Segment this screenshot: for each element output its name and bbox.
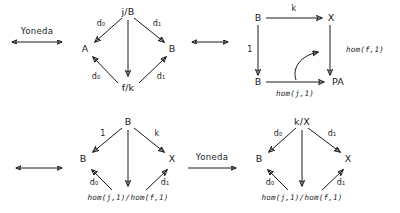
panel2-edge-top-label: k [292,5,297,13]
panel4-edge-apex-left-label: d₀ [274,130,283,138]
panel1-edge-bottom-left-label: d₀ [92,73,101,81]
panel2-edge-bottom-label: hom(j,1) [276,90,314,98]
panel3-edge-bottom-left-label: d₀ [90,179,99,187]
panel2-edge-right-label: hom(f,1) [346,46,384,54]
panel3-node-bottom: hom(j,1)/hom(f,1) [87,194,168,202]
panel1-edge-apex-left-label: d₀ [97,20,106,28]
yoneda-top-label: Yoneda [21,27,53,36]
panel1-edge-bottom-right-label: d₁ [157,73,166,81]
panel1-edge-apex-right-label: d₁ [153,20,162,28]
panel4-edge-bottom-left-label: d₀ [266,179,275,187]
panel4-edge-apex-right-label: d₁ [328,130,337,138]
panel4-node-right: X [345,154,352,164]
panel2-node-bottom-left: B [255,77,262,87]
panel2-edge-left-label: 1 [247,46,252,54]
panel4-edge-bottom-right-label: d₁ [337,179,346,187]
panel1-node-apex: j/B [122,7,135,17]
panel3-edge-apex-left-label: 1 [100,130,105,138]
panel1-node-right: B [169,44,176,54]
panel2-edges [258,18,330,82]
yoneda-bottom-label: Yoneda [196,153,228,162]
panel3-node-left: B [80,154,87,164]
panel3-node-apex: B [125,117,132,127]
panel3-edge-apex-right-label: k [155,130,160,138]
panel2-node-bottom-right: PA [332,77,344,87]
figure-canvas: Yoneda Yoneda j/B A B f/k d₀ d₁ d₀ d₁ B … [0,0,400,213]
panel3-edge-bottom-right-label: d₁ [161,179,170,187]
panel4-node-bottom: hom(j,1)/hom(f,1) [261,194,342,202]
panel2-node-top-left: B [255,13,262,23]
panel4-node-left: B [256,154,263,164]
panel1-node-left: A [82,44,89,54]
panel2-node-top-right: X [328,13,335,23]
panel4-node-apex: k/X [294,117,310,127]
panel1-node-bottom: f/k [122,83,135,93]
panel3-node-right: X [169,154,176,164]
